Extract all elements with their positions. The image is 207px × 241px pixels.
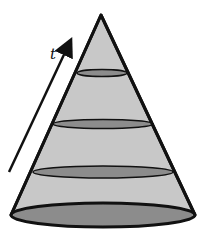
cone-diagram: t (0, 0, 207, 241)
cross-section-3 (33, 166, 173, 178)
cross-section-2 (53, 120, 153, 129)
cone-base (11, 203, 195, 227)
time-arrow-label: t (50, 45, 57, 63)
cross-section-1 (77, 70, 127, 77)
